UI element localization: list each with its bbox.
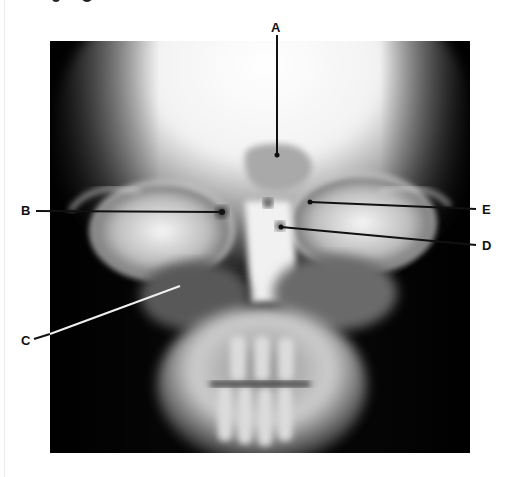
label-a: A xyxy=(271,21,280,34)
label-c: C xyxy=(21,334,30,347)
leader-line-b xyxy=(36,211,222,212)
label-e: E xyxy=(482,203,491,216)
leader-line-c-inner xyxy=(50,286,180,334)
label-d: D xyxy=(482,239,491,252)
leader-lines xyxy=(0,0,515,477)
leader-line-c-outer xyxy=(34,334,50,339)
label-b: B xyxy=(21,204,30,217)
leader-line-d xyxy=(281,227,476,245)
leader-line-e xyxy=(310,202,476,209)
